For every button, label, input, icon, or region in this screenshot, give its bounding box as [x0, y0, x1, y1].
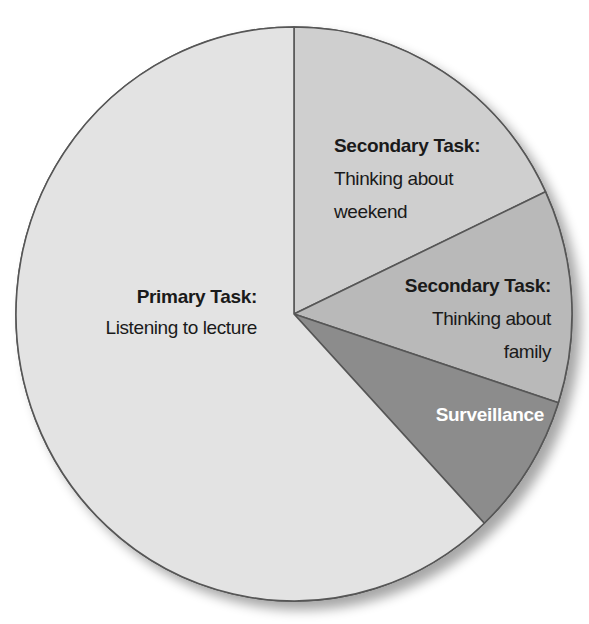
slice-label-family-title: Secondary Task: [405, 275, 551, 296]
slice-label-weekend-title: Secondary Task: [334, 135, 480, 156]
pie-chart: Secondary Task: Thinking about weekend S… [0, 0, 589, 624]
slice-label-primary-line1: Listening to lecture [106, 317, 258, 338]
slice-label-weekend-line1: Thinking about [334, 168, 454, 189]
slice-label-family-line2: family [504, 341, 552, 362]
slice-label-weekend-line2: weekend [333, 201, 407, 222]
slice-label-family-line1: Thinking about [432, 308, 552, 329]
slice-label-primary-title: Primary Task: [137, 286, 257, 307]
slice-label-surveillance: Surveillance [436, 404, 544, 425]
